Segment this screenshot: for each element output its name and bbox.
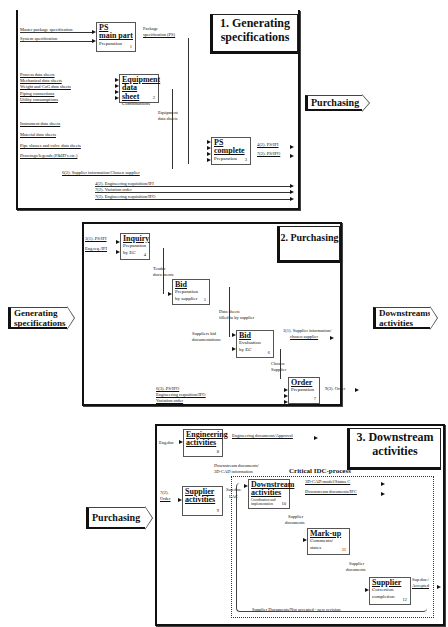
arrow-icon [232,333,236,337]
arrow-icon [244,484,248,488]
input-supplier-info: 6(2). Supplier information/Chosen suppli… [62,170,140,175]
box4-number: 4 [144,252,146,258]
arrow-icon [290,145,294,149]
output-package-spec-2: specification (PS) [143,32,175,37]
output-supplier-info-2: chosen supplier [290,334,318,339]
process-box-ps-main-part[interactable]: PS main part Preparation 1 [96,22,136,52]
nav-purchasing-2[interactable]: Purchasing [86,507,146,529]
label-supplier-docs-1a: Supplier [288,514,303,519]
nav-purchasing-2-label: Purchasing [92,512,140,523]
process-box-supplier-correction[interactable]: Supplier Correction completion 12 [369,577,411,605]
box7-number: 7 [314,396,316,402]
label-accepted-1: Sup.doc./ [412,577,429,582]
arrow-icon [207,158,211,162]
label-accepted-2: Accepted [412,583,429,588]
box5-sub2: by supplier [175,296,207,302]
box12-number: 12 [403,597,408,603]
arrow-icon [303,538,307,542]
process-box-inquiry[interactable]: Inquiry Preparation by EC 4 [120,233,150,260]
process-box-downstream-activities[interactable]: Downstream activities Coordination and i… [248,479,290,509]
label-data-sheets-2: filled in by supplier [219,315,254,320]
arrow-icon [314,436,318,440]
box11-subtitle: Comments/ states [310,538,338,551]
arrow-icon [437,585,441,589]
box11-title: Mark-up [310,530,347,538]
arrow-icon [284,388,288,392]
process-box-engineering-activities[interactable]: Engineering activities 8 [183,429,223,457]
arrow-icon [284,400,288,404]
nav-purchasing-1-label: Purchasing [311,97,359,108]
box11-number: 11 [342,547,346,553]
input-eng-req-ifi: Eng.req./IFI [85,246,107,251]
output-equip-ds-2: data sheets [158,116,178,121]
arrow-icon [92,39,96,43]
label-suppliers-bid-2: documentations [192,337,221,342]
arrow-icon [381,492,385,496]
arrow-icon [284,394,288,398]
arrow-icon [115,78,119,82]
arrow-icon [381,482,385,486]
label-downstream-docs-2: 3D-CAD information [214,469,253,474]
arrow-icon [330,336,334,340]
box10-number: 10 [282,501,287,507]
input-ps-ifo: 6(3). PS/IFO [156,386,179,391]
arrow-icon [116,240,120,244]
box4-title: Inquiry [123,235,147,243]
input-piping: Piping connections [20,91,54,96]
box3-title-2: complete [214,147,248,155]
input-pipe-classes: Pipe classes and valve data sheets [20,143,81,148]
process-box-ps-complete[interactable]: PS complete Preparation 3 [211,137,251,165]
arrow-icon [207,146,211,150]
panel1-title-line2: specifications [213,31,297,45]
arrow-icon [355,388,359,392]
label-tender-1: Tender [153,266,165,271]
output-order: 9(3). Order [325,386,345,391]
box6-title: Bid [239,332,271,340]
input-eng-doc: Eng.doc [159,440,174,445]
arrow-icon [178,498,182,502]
label-chosen-1: Chosen [271,361,285,366]
box8-title-2: activities [186,439,220,447]
box1-number: 1 [130,44,132,50]
process-box-order[interactable]: Order Preparation 7 [288,377,320,404]
arrow-icon [365,588,369,592]
process-box-equipment-data-sheet[interactable]: Equipment data sheet Combinations 2 [119,74,159,103]
output-ps-ifo: 7(2). PS/IFO [257,151,280,156]
arrow-icon [232,347,236,351]
input-weight-cog: Weight and CoG data sheets [20,84,71,89]
nav-generating-specifications[interactable]: Generating specifications [8,307,68,329]
input-ps-ifi: 3(1). PS/IFI [85,236,107,241]
arrow-icon [92,30,96,34]
input-material-ds: Material data sheets [20,132,56,137]
input-eng-req-ifo: Engineering requsition/IFO [156,392,206,397]
box2-subtitle: Combinations [122,101,156,107]
input-variation-order: Variation order [156,398,183,403]
arrow-icon [168,292,172,296]
label-suppliers-bid-1: Suppliers bid [192,331,216,336]
input-mechanical-data: Mechanical data sheets [20,78,62,83]
label-downstream-docs-1: Downstream documents/ [214,463,259,468]
output-eng-docs-approval: Engineering documents/Approval [232,433,293,438]
arrow-icon [115,84,119,88]
panel1-title-line1: 1. Generating [213,17,297,31]
box6-sub2: by EC [239,347,271,353]
arrow-icon [115,90,119,94]
panel2-title-box: 2. Purchasing [277,226,340,263]
output-package-spec-1: Package [143,26,158,31]
process-box-bid-preparation[interactable]: Bid Preparation by supplier 5 [172,279,210,305]
input-order-2: Order [160,496,171,501]
nav-purchasing-1[interactable]: Purchasing [305,95,363,111]
process-box-supplier-activities[interactable]: Supplier activities 9 [182,486,223,516]
process-box-mark-up[interactable]: Mark-up Comments/ states 11 [307,528,350,555]
process-box-bid-evaluation[interactable]: Bid Evaluation by EC 6 [236,330,274,358]
arrow-icon [207,140,211,144]
critical-idc-label: Critical IDC-process [289,467,351,475]
box2-title-2: data sheet [122,84,156,101]
input-drawings: Drawings/legends (P&ID's etc.) [20,153,77,158]
box5-number: 5 [204,297,206,303]
nav-downstreams-activities[interactable]: Downstreams activities [373,307,431,329]
nav-gen-spec-line2: specifications [14,319,64,329]
box10-title-2: activities [251,489,287,497]
label-sup-doc-2: LAC [229,494,238,499]
input-instrument-ds: Instrument data sheets [20,121,60,126]
